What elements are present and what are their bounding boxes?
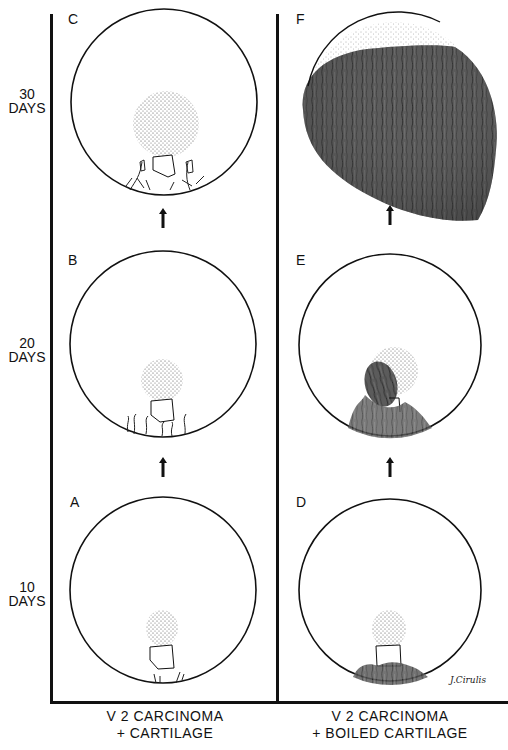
column-caption-cartilage: V 2 CARCINOMA + CARTILAGE <box>60 708 270 742</box>
caption-line-1: V 2 CARCINOMA <box>60 708 270 725</box>
arrow-up-icon-right-top <box>386 205 394 225</box>
panel-b-drawing <box>70 251 256 437</box>
panel-d-drawing <box>299 499 481 685</box>
caption-line-1: V 2 CARCINOMA <box>285 708 495 725</box>
column-caption-boiled-cartilage: V 2 CARCINOMA + BOILED CARTILAGE <box>285 708 495 742</box>
caption-line-2: + CARTILAGE <box>60 725 270 742</box>
arrow-up-icon-right-bottom <box>386 457 394 477</box>
figure-drawing <box>0 0 508 750</box>
panel-c-drawing <box>71 9 257 195</box>
arrow-up-icon-left-top <box>159 208 167 228</box>
panel-a-drawing <box>70 497 256 683</box>
caption-line-2: + BOILED CARTILAGE <box>285 725 495 742</box>
panel-e-drawing <box>299 254 481 438</box>
artist-signature: J.Cirulis <box>450 675 486 685</box>
panel-f-drawing <box>298 12 497 221</box>
arrow-up-icon-left-bottom <box>159 457 167 477</box>
